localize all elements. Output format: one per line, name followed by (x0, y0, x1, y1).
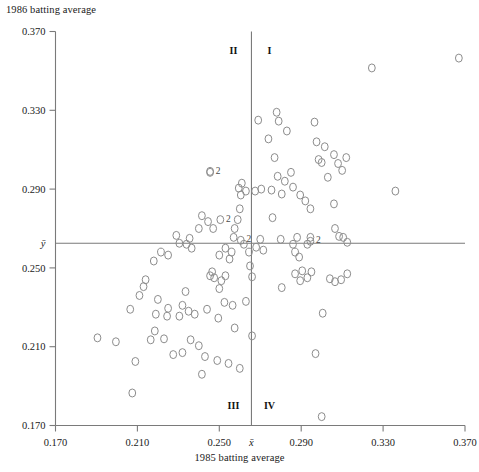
data-point (249, 332, 256, 340)
quadrant-label-iv: IV (264, 400, 276, 411)
data-point (229, 301, 236, 309)
x-tick-label: 0.370 (453, 437, 477, 448)
data-point (302, 197, 309, 205)
data-point (332, 225, 339, 233)
data-point (214, 356, 221, 364)
data-point (183, 240, 190, 248)
data-point (127, 305, 134, 313)
data-point-duplicate (217, 216, 224, 224)
data-point (455, 54, 462, 62)
data-point (94, 334, 101, 342)
data-point (281, 177, 288, 185)
data-point (321, 143, 328, 151)
data-point (150, 257, 157, 265)
duplicate-count-label: 2 (246, 234, 251, 244)
data-point (278, 284, 285, 292)
data-point (277, 235, 284, 243)
data-point (231, 225, 238, 233)
data-point (257, 235, 264, 243)
data-point (179, 349, 186, 357)
mean-x-label: x̄ (248, 437, 254, 448)
data-point (331, 151, 338, 159)
data-point (205, 218, 212, 226)
data-point (204, 305, 211, 313)
data-point (283, 127, 290, 135)
data-point (234, 216, 241, 224)
data-point (294, 233, 301, 241)
quadrant-label-i: I (267, 45, 271, 56)
data-point (215, 314, 222, 322)
x-tick-label: 0.250 (207, 437, 231, 448)
data-point (226, 255, 233, 263)
x-tick-label: 0.330 (371, 437, 395, 448)
duplicate-count-label: 2 (226, 214, 231, 224)
data-point (225, 359, 232, 367)
data-point (191, 310, 198, 318)
data-point (195, 342, 202, 350)
data-point (236, 364, 243, 372)
quadrant-label-iii: III (228, 400, 240, 411)
data-point (158, 248, 165, 256)
data-point (186, 234, 193, 242)
data-point (147, 336, 154, 344)
data-point (269, 214, 276, 222)
data-point (296, 253, 303, 261)
data-point (188, 244, 195, 252)
data-point (255, 116, 262, 124)
data-point (187, 336, 194, 344)
data-point (268, 186, 275, 194)
data-point (278, 190, 285, 198)
y-tick-label: 0.290 (22, 184, 46, 195)
mean-y-label: ȳ (40, 238, 46, 249)
data-point (271, 154, 278, 162)
data-point (299, 267, 306, 275)
data-point (275, 117, 282, 125)
data-point (222, 272, 229, 280)
data-point (340, 233, 347, 241)
data-point (290, 240, 297, 248)
data-point (243, 187, 250, 195)
data-point (164, 312, 171, 320)
data-point (249, 273, 256, 281)
duplicate-count-label: 2 (216, 166, 221, 176)
plot-canvas: 0.1700.2100.2500.2900.3300.3700.1700.210… (0, 0, 479, 472)
data-point (331, 200, 338, 208)
data-point (218, 277, 225, 285)
x-tick-label: 0.210 (126, 437, 150, 448)
data-point (161, 335, 168, 343)
data-point (165, 304, 172, 312)
y-tick-label: 0.370 (22, 26, 46, 37)
data-point (339, 166, 346, 174)
data-point (140, 283, 147, 291)
data-point (230, 233, 237, 241)
data-point (297, 277, 304, 285)
data-point (198, 212, 205, 220)
data-point (311, 118, 318, 126)
data-point (210, 225, 217, 233)
data-point (344, 270, 351, 278)
quadrant-label-ii: II (230, 45, 238, 56)
data-point (368, 64, 375, 72)
data-point (152, 310, 159, 318)
data-point (335, 159, 342, 167)
x-tick-label: 0.170 (44, 437, 68, 448)
x-tick-label: 0.290 (289, 437, 313, 448)
data-point (247, 262, 254, 270)
x-axis-label: 1985 batting average (0, 452, 479, 463)
scatter-plot-figure: 1986 batting average 0.1700.2100.2500.29… (0, 0, 479, 472)
data-point (129, 389, 136, 397)
data-point (253, 243, 260, 251)
data-point (236, 205, 243, 213)
data-point (151, 327, 158, 335)
data-point (273, 108, 280, 116)
data-point (216, 285, 223, 293)
data-point (198, 370, 205, 378)
data-point (313, 138, 320, 146)
data-point (308, 268, 315, 276)
data-point (265, 135, 272, 143)
data-point (290, 183, 297, 191)
data-point (307, 205, 314, 213)
data-point (202, 353, 209, 361)
data-point (113, 338, 120, 346)
data-point (243, 297, 250, 305)
